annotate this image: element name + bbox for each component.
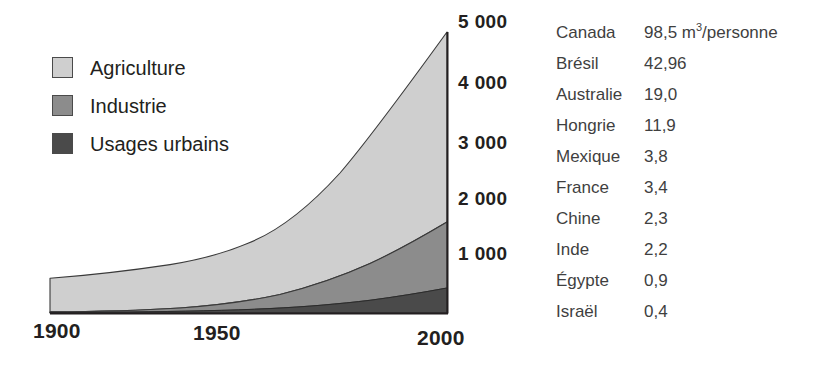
value-number: 98,5 — [644, 23, 677, 42]
table-row: Chine 2,3 — [556, 206, 831, 230]
x-tick-label-1900: 1900 — [33, 320, 81, 341]
stacked-area-chart: 5 000 4 000 3 000 2 000 1 000 1900 1950 … — [0, 0, 545, 367]
cubic-exponent: 3 — [696, 21, 702, 33]
table-cell-value: 3,8 — [644, 148, 668, 165]
table-cell-country: Canada — [556, 24, 644, 41]
legend-label-agriculture: Agriculture — [90, 58, 186, 78]
x-tick-label-2000: 2000 — [417, 327, 465, 348]
legend-item-agriculture: Agriculture — [52, 52, 229, 83]
table-cell-value: 11,9 — [644, 117, 676, 134]
x-tick-label-1950: 1950 — [193, 322, 241, 343]
table-row: Mexique 3,8 — [556, 144, 831, 168]
table-cell-value: 19,0 — [644, 86, 677, 103]
y-tick-label-5000: 5 000 — [458, 12, 508, 31]
table-cell-value: 2,2 — [644, 241, 668, 258]
legend-swatch-usages-urbains — [52, 133, 73, 154]
y-tick-label-4000: 4 000 — [458, 73, 508, 92]
legend-item-industrie: Industrie — [52, 90, 229, 121]
table-row: Australie 19,0 — [556, 82, 831, 106]
table-cell-country: Hongrie — [556, 117, 644, 134]
y-tick-label-3000: 3 000 — [458, 133, 508, 152]
table-cell-country: Mexique — [556, 148, 644, 165]
table-cell-country: France — [556, 179, 644, 196]
table-cell-country: Israël — [556, 303, 644, 320]
table-cell-country: Brésil — [556, 55, 644, 72]
table-row: Israël 0,4 — [556, 299, 831, 323]
legend-swatch-agriculture — [52, 57, 73, 78]
country-consumption-table: Canada 98,5 m3/personne Brésil 42,96 Aus… — [556, 0, 831, 367]
table-cell-value: 0,4 — [644, 303, 668, 320]
table-cell-value: 0,9 — [644, 272, 668, 289]
table-cell-country: Égypte — [556, 272, 644, 289]
legend-label-usages-urbains: Usages urbains — [90, 134, 229, 154]
table-cell-country: Chine — [556, 210, 644, 227]
table-cell-value: 42,96 — [644, 55, 687, 72]
table-cell-value: 3,4 — [644, 179, 668, 196]
table-cell-country: Inde — [556, 241, 644, 258]
legend-label-industrie: Industrie — [90, 96, 167, 116]
y-tick-label-1000: 1 000 — [458, 244, 508, 263]
table-cell-country: Australie — [556, 86, 644, 103]
table-row: Inde 2,2 — [556, 237, 831, 261]
table-row: Brésil 42,96 — [556, 51, 831, 75]
legend-swatch-industrie — [52, 95, 73, 116]
table-row: Canada 98,5 m3/personne — [556, 20, 831, 44]
legend-item-usages-urbains: Usages urbains — [52, 128, 229, 159]
table-row: Égypte 0,9 — [556, 268, 831, 292]
table-cell-value: 98,5 m3/personne — [644, 24, 778, 41]
table-cell-value: 2,3 — [644, 210, 668, 227]
y-tick-label-2000: 2 000 — [458, 189, 508, 208]
table-row: Hongrie 11,9 — [556, 113, 831, 137]
chart-legend: Agriculture Industrie Usages urbains — [52, 52, 229, 166]
table-row: France 3,4 — [556, 175, 831, 199]
